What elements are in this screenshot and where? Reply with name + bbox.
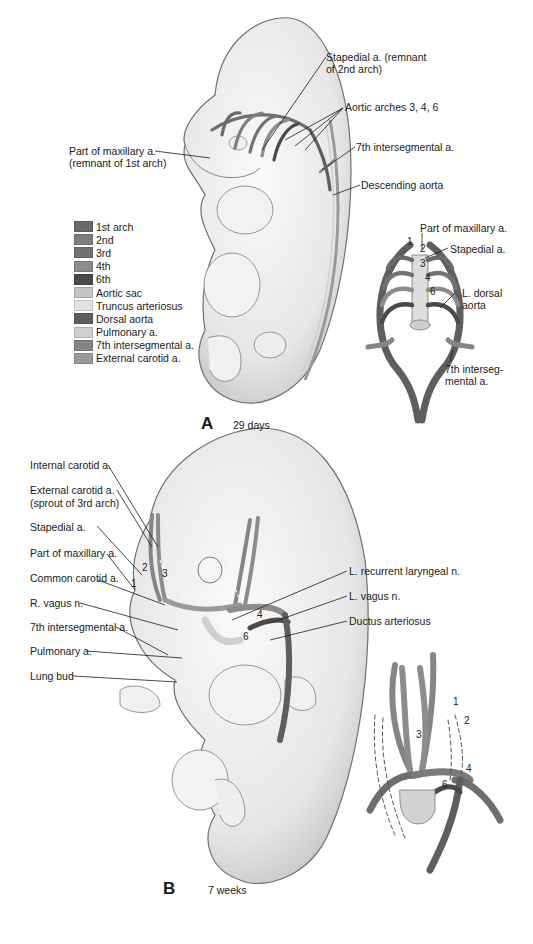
inset-b-arch-number: 4 [466,763,472,774]
label-r-vagus: R. vagus n. [30,597,83,609]
inset-b-vessels [370,655,500,870]
inset-b-arch-number: 6 [442,779,448,790]
legend-item: Aortic sac [74,286,194,299]
inset-a-arch-number: 1 [407,236,413,247]
legend-item: 3rd [74,246,194,259]
legend-item: Truncus arteriosus [74,299,194,312]
label-pulmonary: Pulmonary a. [30,645,92,657]
label-stapedial-remnant-line2: of 2nd arch) [326,63,382,75]
panel-a-caption: 29 days [233,419,270,431]
legend-label: 7th intersegmental a. [96,339,194,351]
label-lung-bud: Lung bud [30,670,74,682]
label-part-of-maxillary: Part of maxillary a. [69,145,156,157]
legend-item: Dorsal aorta [74,312,194,325]
legend-item: Pulmonary a. [74,326,194,339]
label-external-carotid: External carotid a. [30,484,115,496]
inset-a-label-7th-intersegmental: 7th interseg- [445,363,503,375]
legend-swatch [74,353,93,364]
legend-swatch [74,261,93,272]
legend-label: 1st arch [96,221,133,233]
legend-item: 4th [74,260,194,273]
label-ductus-arteriosus: Ductus arteriosus [349,615,431,627]
label-aortic-arches: Aortic arches 3, 4, 6 [345,101,438,113]
label-7th-intersegmental: 7th intersegmental a. [356,141,454,153]
label-stapedial-remnant: Stapedial a. (remnant [326,51,426,63]
embryo-b [120,428,368,883]
label-l-vagus: L. vagus n. [349,590,400,602]
legend-label: 2nd [96,234,114,246]
legend-swatch [74,234,93,245]
label-part-of-maxillary-line2: (remnant of 1st arch) [69,157,166,169]
legend-swatch [74,340,93,351]
legend-swatch [74,327,93,338]
label-descending-aorta: Descending aorta [361,179,443,191]
label-common-carotid: Common carotid a. [30,572,119,584]
legend-label: Truncus arteriosus [96,300,183,312]
legend-item: 6th [74,273,194,286]
legend-label: Dorsal aorta [96,313,153,325]
legend-swatch [74,247,93,258]
inset-a-arch-number: 6 [430,286,436,297]
inset-a-label-stapedial: Stapedial a. [450,243,505,255]
legend-swatch [74,221,93,232]
inset-a-arch-number: 3 [420,258,426,269]
legend-label: External carotid a. [96,352,181,364]
color-legend: 1st arch 2nd 3rd 4th 6th Aortic sac Trun… [74,220,194,365]
legend-item: 7th intersegmental a. [74,339,194,352]
inset-b-arch-number: 3 [416,729,422,740]
legend-label: 3rd [96,247,111,259]
legend-item: 2nd [74,233,194,246]
embryo-b-arch-number: 6 [243,631,249,642]
inset-b-arch-number: 2 [464,715,470,726]
legend-swatch [74,274,93,285]
panel-b-letter: B [163,879,175,899]
embryo-b-arch-number: 3 [162,568,168,579]
label-part-of-maxillary: Part of maxillary a. [30,547,117,559]
legend-label: Aortic sac [96,287,142,299]
legend-item: 1st arch [74,220,194,233]
legend-swatch [74,287,93,298]
panel-b-caption: 7 weeks [208,884,247,896]
inset-a-label-l-dorsal-aorta-line2: aorta [462,299,486,311]
legend-swatch [74,300,93,311]
label-external-carotid-line2: (sprout of 3rd arch) [30,497,119,509]
label-stapedial: Stapedial a. [30,521,85,533]
legend-item: External carotid a. [74,352,194,365]
inset-a-label-l-dorsal-aorta: L. dorsal [462,287,502,299]
embryo-b-arch-number: 1 [131,578,137,589]
label-internal-carotid: Internal carotid a. [30,459,111,471]
inset-b-arch-number: 1 [453,696,459,707]
embryo-b-arch-number: 2 [142,562,148,573]
panel-a-letter: A [201,414,213,434]
label-l-recurrent-laryngeal: L. recurrent laryngeal n. [349,565,460,577]
legend-swatch [74,313,93,324]
inset-a-label-7th-intersegmental-line2: mental a. [445,375,488,387]
legend-label: 4th [96,260,111,272]
inset-a-label-part-of-maxillary: Part of maxillary a. [420,222,507,234]
inset-a-arch-number: 4 [425,272,431,283]
label-7th-intersegmental: 7th intersegmental a. [30,621,128,633]
embryo-a [184,18,351,403]
embryo-b-arch-number: 4 [257,609,263,620]
legend-label: 6th [96,273,111,285]
inset-a-vessels [368,245,472,420]
legend-label: Pulmonary a. [96,326,158,338]
inset-a-arch-number: 2 [420,243,426,254]
